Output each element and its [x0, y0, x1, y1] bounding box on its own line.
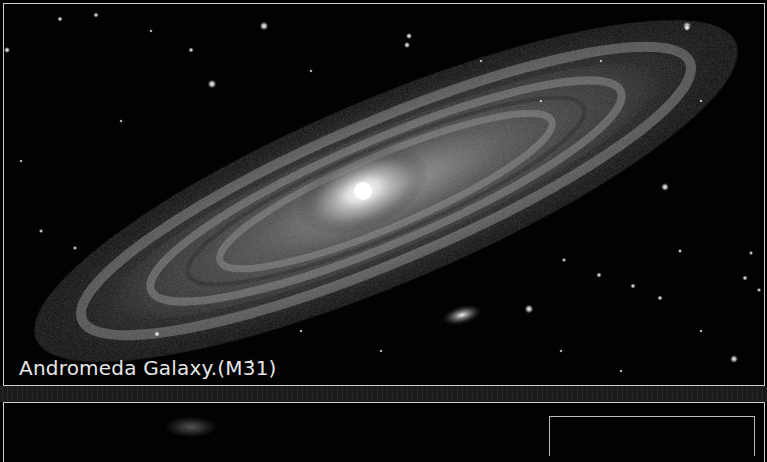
- satellite-galaxy: [438, 300, 486, 331]
- inset-frame: [549, 416, 755, 456]
- faint-nebula: [166, 417, 216, 437]
- separator-band: [0, 386, 767, 402]
- lower-photo-panel: [3, 402, 765, 462]
- galaxy-photo-panel: Andromeda Galaxy.(M31): [3, 3, 765, 386]
- andromeda-galaxy-image: [4, 4, 765, 386]
- photo-caption: Andromeda Galaxy.(M31): [19, 356, 277, 380]
